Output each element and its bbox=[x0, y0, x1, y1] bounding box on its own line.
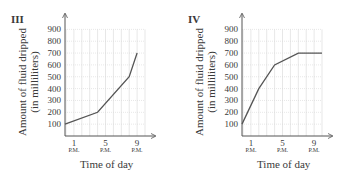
y-tick-label: 200 bbox=[225, 107, 239, 117]
y-tick-label: 700 bbox=[225, 48, 239, 58]
y-tick-label: 500 bbox=[225, 72, 239, 82]
plot-area: 1002003004005006007008009001P.M.5P.M.9P.… bbox=[177, 0, 354, 177]
y-tick-label: 200 bbox=[48, 107, 62, 117]
y-tick-label: 600 bbox=[48, 60, 62, 70]
plot-area: 1002003004005006007008009001P.M.5P.M.9P.… bbox=[0, 0, 177, 177]
chart-iii: III Amount of fluid dripped (in millilit… bbox=[0, 0, 177, 177]
y-tick-label: 400 bbox=[225, 84, 239, 94]
x-tick-suffix: P.M. bbox=[68, 147, 80, 153]
x-tick-suffix: P.M. bbox=[245, 147, 257, 153]
x-tick-suffix: P.M. bbox=[100, 147, 112, 153]
y-tick-label: 100 bbox=[48, 119, 62, 129]
grid bbox=[242, 29, 322, 136]
y-tick-label: 800 bbox=[48, 36, 62, 46]
y-tick-label: 400 bbox=[48, 84, 62, 94]
y-tick-label: 300 bbox=[48, 95, 62, 105]
y-tick-label: 500 bbox=[48, 72, 62, 82]
x-tick-suffix: P.M. bbox=[277, 147, 289, 153]
x-tick-suffix: P.M. bbox=[309, 147, 321, 153]
y-tick-label: 800 bbox=[225, 36, 239, 46]
chart-iv: IV Amount of fluid dripped (in millilite… bbox=[177, 0, 354, 177]
y-tick-label: 900 bbox=[48, 24, 62, 34]
x-tick-suffix: P.M. bbox=[132, 147, 144, 153]
y-tick-label: 900 bbox=[225, 24, 239, 34]
y-tick-label: 600 bbox=[225, 60, 239, 70]
y-tick-label: 700 bbox=[48, 48, 62, 58]
y-tick-label: 300 bbox=[225, 95, 239, 105]
y-tick-label: 100 bbox=[225, 119, 239, 129]
